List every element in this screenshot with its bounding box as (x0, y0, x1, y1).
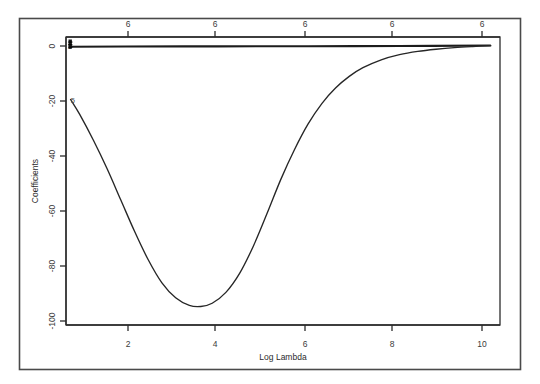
left-axis: 0 -20 -40 -60 -80 -100 Coefficients (30, 37, 66, 330)
top-tick-label-1: 6 (213, 19, 218, 29)
x-tick-label-3: 8 (390, 339, 395, 349)
x-tick-label-0: 2 (126, 339, 131, 349)
cluster-mark-a (68, 42, 72, 43)
coef-cluster-marks (68, 40, 72, 49)
cluster-mark-c (68, 47, 72, 48)
x-tick-label-4: 10 (477, 339, 487, 349)
y-tick-label-1: -20 (47, 95, 57, 108)
x-tick-label-1: 4 (213, 339, 218, 349)
chart-svg: 6 6 6 6 6 2 4 6 8 10 Log Lambda (0, 0, 540, 384)
y-tick-label-2: -40 (47, 150, 57, 163)
annotation-group: 5 1 (68, 43, 75, 106)
top-tick-label-4: 6 (480, 19, 485, 29)
plot-panel-border (66, 37, 500, 325)
y-tick-label-3: -60 (47, 205, 57, 218)
top-axis: 6 6 6 6 6 (66, 19, 500, 37)
y-axis-title: Coefficients (30, 159, 40, 203)
chart-figure: 6 6 6 6 6 2 4 6 8 10 Log Lambda (0, 0, 540, 384)
y-tick-label-4: -80 (47, 260, 57, 273)
figure-border (20, 19, 521, 370)
bottom-axis: 2 4 6 8 10 Log Lambda (66, 325, 500, 362)
top-tick-label-0: 6 (126, 19, 131, 29)
series-group (71, 46, 491, 307)
x-tick-label-2: 6 (303, 339, 308, 349)
series-coefficient-line (71, 46, 491, 307)
curve-5-label: 5 (71, 96, 75, 105)
y-tick-label-0: 0 (47, 43, 57, 48)
series-flat-line (71, 46, 491, 47)
y-tick-label-5: -100 (47, 312, 57, 329)
cluster-mark-b (68, 44, 72, 45)
top-tick-label-2: 6 (303, 19, 308, 29)
x-axis-title: Log Lambda (259, 352, 307, 362)
top-tick-label-3: 6 (390, 19, 395, 29)
